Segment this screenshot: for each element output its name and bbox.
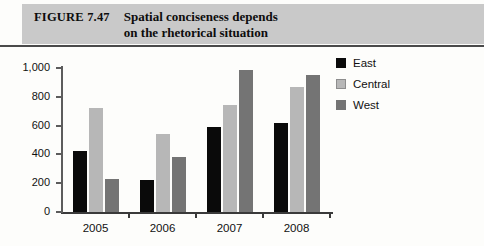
legend-swatch-west-icon	[336, 100, 346, 110]
legend-label: Central	[353, 78, 390, 90]
bar-chart: 02004006008001,000 2005200620072008	[0, 52, 484, 246]
chart-legend: EastCentralWest	[336, 52, 390, 115]
figure-title-line-2: on the rhetorical situation	[124, 25, 278, 41]
figure-title-banner: FIGURE 7.47 Spatial conciseness depends …	[22, 4, 484, 44]
x-axis-label-2007: 2007	[200, 222, 260, 234]
legend-item-west: West	[336, 94, 390, 115]
x-axis-tick	[329, 212, 331, 218]
legend-swatch-central-icon	[336, 79, 346, 89]
x-axis-tick	[195, 212, 197, 218]
x-axis-label-2008: 2008	[267, 222, 327, 234]
bar-central-2006	[156, 134, 170, 212]
x-axis-label-2006: 2006	[133, 222, 193, 234]
figure-title-line-1: Spatial conciseness depends	[124, 9, 278, 25]
y-axis-tick-label: 0	[4, 206, 50, 217]
y-axis-tick-label: 1,000	[4, 62, 50, 73]
legend-item-central: Central	[336, 73, 390, 94]
bar-west-2007	[239, 70, 253, 212]
bar-east-2006	[140, 180, 154, 212]
y-axis-tick-label: 400	[4, 148, 50, 159]
bar-west-2005	[105, 179, 119, 212]
x-axis-tick	[128, 212, 130, 218]
y-axis-tick-label: 800	[4, 91, 50, 102]
bar-west-2008	[306, 75, 320, 212]
figure-title: Spatial conciseness depends on the rheto…	[124, 9, 278, 41]
y-axis-tick-label: 600	[4, 120, 50, 131]
bar-central-2008	[290, 87, 304, 212]
banner-divider-rule	[0, 45, 484, 47]
bar-east-2008	[274, 123, 288, 212]
y-axis-tick-label: 200	[4, 177, 50, 188]
x-axis-tick	[262, 212, 264, 218]
legend-swatch-east-icon	[336, 58, 346, 68]
x-axis-label-2005: 2005	[66, 222, 126, 234]
bar-east-2005	[73, 151, 87, 212]
legend-label: West	[353, 99, 379, 111]
x-axis-line	[61, 212, 333, 214]
bar-central-2007	[223, 105, 237, 212]
legend-item-east: East	[336, 52, 390, 73]
legend-label: East	[353, 57, 376, 69]
bar-east-2007	[207, 127, 221, 212]
figure-number-label: FIGURE 7.47	[34, 9, 110, 25]
bar-central-2005	[89, 108, 103, 212]
bar-west-2006	[172, 157, 186, 212]
plot-area	[62, 68, 330, 212]
figure-title-banner-inner: FIGURE 7.47 Spatial conciseness depends …	[34, 9, 480, 41]
